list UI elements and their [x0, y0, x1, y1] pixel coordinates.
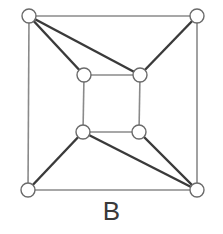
node-inner-tl — [77, 68, 91, 82]
node-outer-tr — [190, 9, 204, 23]
node-outer-tl — [22, 9, 36, 23]
edge-outer-tl-inner-tl — [29, 16, 84, 75]
edge-outer-tl-inner-tr — [29, 16, 140, 75]
graph-edges — [28, 16, 197, 190]
edge-outer-tr-inner-tr — [140, 16, 197, 75]
edge-outer-bl-inner-bl — [28, 132, 83, 190]
edge-outer-bl-outer-tl — [28, 16, 29, 190]
node-inner-br — [132, 125, 146, 139]
edge-inner-bl-inner-tl — [83, 75, 84, 132]
diagram-label: B — [0, 196, 223, 226]
edge-inner-tr-inner-br — [139, 75, 140, 132]
node-inner-tr — [133, 68, 147, 82]
node-outer-br — [190, 183, 204, 197]
edge-outer-br-inner-br — [139, 132, 197, 190]
node-inner-bl — [76, 125, 90, 139]
node-outer-bl — [21, 183, 35, 197]
edge-outer-br-inner-bl — [83, 132, 197, 190]
